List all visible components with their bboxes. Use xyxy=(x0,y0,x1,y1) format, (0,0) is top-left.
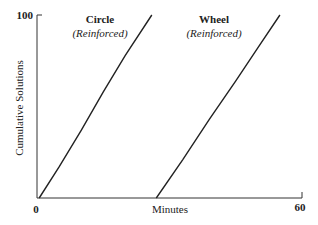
circle-series-line xyxy=(39,15,152,198)
x-axis-title: Minutes xyxy=(152,203,188,215)
wheel-series-line xyxy=(156,15,280,198)
x-tick-60: 60 xyxy=(295,201,307,213)
x-tick-0: 0 xyxy=(33,203,39,215)
y-tick-100: 100 xyxy=(17,9,34,21)
wheel-sublabel: (Reinforced) xyxy=(186,27,242,40)
wheel-label: Wheel xyxy=(199,13,229,25)
circle-label: Circle xyxy=(86,13,115,25)
circle-sublabel: (Reinforced) xyxy=(72,27,128,40)
cumulative-solutions-chart: 100 0 60 Minutes Cumulative Solutions Ci… xyxy=(0,0,318,225)
y-axis-title: Cumulative Solutions xyxy=(13,60,25,156)
